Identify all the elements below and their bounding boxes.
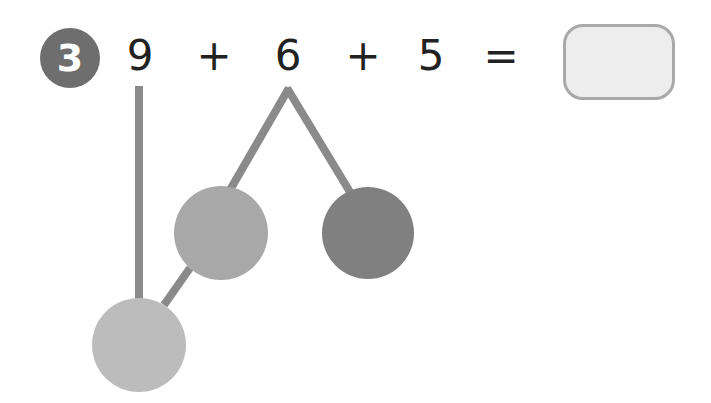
bond-line-6-left: [230, 88, 289, 190]
bond-line-6-right: [287, 88, 350, 192]
bond-line-part-to-result: [164, 268, 190, 305]
circle-split-part-right[interactable]: [322, 187, 414, 279]
circle-split-part-left[interactable]: [174, 186, 268, 280]
circle-combined-result[interactable]: [92, 298, 186, 392]
number-bond-diagram: [0, 0, 711, 403]
